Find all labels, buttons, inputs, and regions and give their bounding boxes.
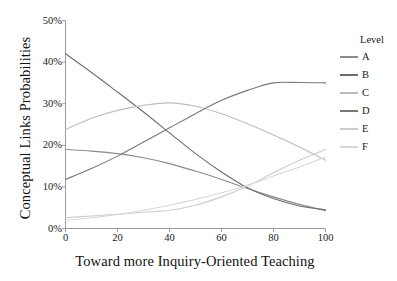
legend-item-label: B: [362, 69, 369, 81]
data-series-lines: [66, 54, 326, 220]
legend-item-f[interactable]: F: [340, 138, 397, 156]
legend-line-swatch: [340, 128, 358, 130]
legend-item-d[interactable]: D: [340, 102, 397, 120]
legend-line-swatch: [340, 56, 358, 58]
series-line-a: [66, 149, 326, 210]
chart-figure: Conceptual Links Probabilities Toward mo…: [0, 0, 397, 281]
legend-item-c[interactable]: C: [340, 84, 397, 102]
plot-area: [0, 0, 397, 281]
legend-items: ABCDEF: [340, 48, 397, 156]
axis-lines: [66, 21, 326, 229]
legend-line-swatch: [340, 146, 358, 148]
series-line-e: [66, 149, 326, 217]
legend-item-label: F: [362, 141, 368, 153]
series-line-c: [66, 103, 326, 160]
legend-line-swatch: [340, 110, 358, 112]
series-line-b: [66, 54, 326, 210]
series-line-d: [66, 82, 326, 179]
legend-line-swatch: [340, 92, 358, 94]
legend: Level ABCDEF: [340, 34, 397, 156]
legend-title: Level: [360, 34, 397, 45]
legend-item-label: E: [362, 123, 368, 135]
legend-item-label: D: [362, 105, 370, 117]
legend-line-swatch: [340, 74, 358, 76]
legend-item-a[interactable]: A: [340, 48, 397, 66]
legend-item-label: C: [362, 87, 369, 99]
legend-item-e[interactable]: E: [340, 120, 397, 138]
legend-item-b[interactable]: B: [340, 66, 397, 84]
legend-item-label: A: [362, 51, 370, 63]
